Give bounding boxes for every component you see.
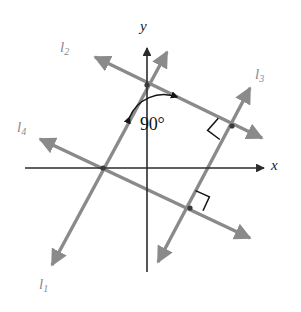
- line-l1: [52, 52, 167, 265]
- label-angle-90: 90°: [140, 114, 165, 135]
- dot-l1-l4: [100, 165, 105, 170]
- intersection-dots: [100, 82, 234, 210]
- lines-group: [40, 52, 262, 265]
- label-line-l1: l1: [39, 276, 48, 293]
- line-l2: [95, 57, 262, 138]
- right-angle-square-l2-l3: [208, 118, 220, 139]
- line-l4: [40, 139, 250, 238]
- dot-l1-l2: [144, 82, 149, 87]
- dot-l2-l3: [229, 123, 234, 128]
- diagram-canvas: [0, 0, 301, 312]
- label-y-axis: y: [140, 18, 147, 35]
- line-l3: [158, 88, 250, 262]
- dot-l3-l4: [187, 205, 192, 210]
- right-angle-square-l3-l4: [196, 191, 210, 211]
- geometry-figure: l2 l4 l1 l3 x y 90°: [0, 0, 301, 312]
- label-line-l2: l2: [60, 39, 69, 56]
- label-line-l4: l4: [17, 119, 26, 136]
- label-line-l3: l3: [255, 66, 264, 83]
- label-x-axis: x: [271, 157, 278, 174]
